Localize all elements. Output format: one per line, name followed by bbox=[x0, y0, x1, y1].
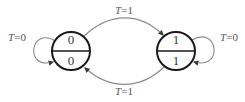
label-self-loop-left-eq: =0 bbox=[14, 31, 26, 43]
transition-right-to-left[interactable] bbox=[85, 67, 164, 84]
right-to-left-path bbox=[85, 67, 164, 84]
state-left-top-value: 0 bbox=[68, 32, 75, 47]
state-node-right[interactable]: 1 1 bbox=[157, 32, 195, 70]
label-right-to-left: T=1 bbox=[115, 85, 133, 97]
state-right-bottom-value: 1 bbox=[173, 53, 180, 68]
left-to-right-path bbox=[84, 18, 163, 36]
transition-left-to-right[interactable] bbox=[84, 18, 163, 36]
state-diagram-canvas: 0 0 1 1 T=0 T=1 T=1 T=0 bbox=[0, 0, 245, 102]
state-node-left[interactable]: 0 0 bbox=[52, 32, 90, 70]
label-left-to-right: T=1 bbox=[115, 4, 133, 16]
label-self-loop-right-eq: =0 bbox=[226, 31, 238, 43]
state-diagram-svg: 0 0 1 1 T=0 T=1 T=1 T=0 bbox=[0, 0, 245, 102]
state-right-top-value: 1 bbox=[173, 32, 180, 47]
label-right-to-left-eq: =1 bbox=[121, 85, 133, 97]
label-self-loop-right: T=0 bbox=[220, 31, 238, 43]
label-self-loop-left: T=0 bbox=[8, 31, 26, 43]
state-left-bottom-value: 0 bbox=[68, 53, 75, 68]
label-left-to-right-eq: =1 bbox=[121, 4, 133, 16]
